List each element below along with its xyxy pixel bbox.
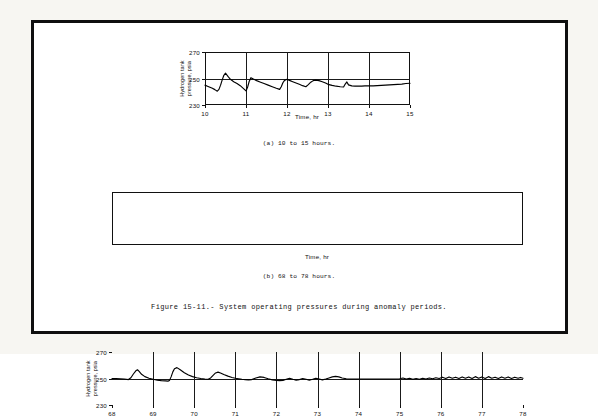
x-tick-label: 76	[437, 410, 444, 417]
x-tick-mark	[359, 405, 360, 408]
x-tick-mark	[400, 405, 401, 408]
x-tick-label: 75	[396, 410, 403, 417]
x-tick-mark	[235, 405, 236, 408]
x-tick-label: 69	[149, 410, 156, 417]
x-tick-mark	[318, 405, 319, 408]
subcaption-b: (b) 68 to 78 hours.	[263, 273, 335, 280]
figure-part-b: 6869707172737475767778 230250270 Hydroge…	[0, 160, 598, 295]
pressure-trace-a	[0, 0, 598, 160]
y-axis-title-a-line1: Hydrogen tank	[179, 60, 185, 96]
y-axis-title-b-line1: Hydrogen tank	[85, 360, 91, 396]
y-tick-mark	[109, 405, 112, 406]
x-axis-title-b: Time, hr	[305, 253, 329, 260]
x-tick-label: 77	[478, 410, 485, 417]
y-axis-title-b: Hydrogen tank pressure, psia	[85, 348, 98, 408]
y-tick-mark	[109, 352, 112, 353]
figure-part-a: 101112131415 230250270 Hydrogen tank pre…	[0, 0, 598, 160]
x-tick-mark	[523, 405, 524, 408]
subcaption-a: (a) 10 to 15 hours.	[263, 140, 335, 147]
x-tick-label: 72	[273, 410, 280, 417]
y-axis-title-a-line2: pressure, psia	[186, 61, 192, 96]
y-axis-title-b-line2: pressure, psia	[92, 361, 98, 396]
x-tick-mark	[482, 405, 483, 408]
x-tick-label: 78	[519, 410, 526, 417]
x-tick-mark	[194, 405, 195, 408]
x-tick-label: 74	[355, 410, 362, 417]
x-axis-title-a: Time, hr	[295, 113, 319, 120]
figure-caption: Figure 15-11.- System operating pressure…	[151, 303, 447, 311]
x-tick-label: 73	[314, 410, 321, 417]
x-tick-label: 68	[108, 410, 115, 417]
x-tick-mark	[153, 405, 154, 408]
x-tick-mark	[112, 405, 113, 408]
x-tick-mark	[441, 405, 442, 408]
x-tick-mark	[276, 405, 277, 408]
y-axis-title-a: Hydrogen tank pressure, psia	[179, 48, 192, 108]
x-tick-label: 70	[191, 410, 198, 417]
x-tick-label: 71	[232, 410, 239, 417]
